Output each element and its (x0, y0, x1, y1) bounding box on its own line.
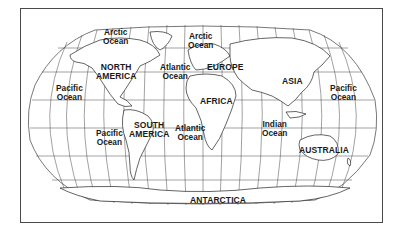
label-line: Ocean (262, 129, 287, 138)
label-line: AUSTRALIA (299, 146, 349, 155)
label-europe: EUROPE (207, 63, 244, 72)
label-asia: ASIA (282, 77, 303, 86)
label-line: ANTARCTICA (190, 196, 246, 205)
label-arctic-ocean-east: Arctic Ocean (188, 32, 213, 50)
label-north-america: NORTH AMERICA (96, 63, 136, 81)
new-zealand-shape (347, 158, 350, 166)
label-pacific-ocean-north-west: Pacific Ocean (56, 84, 83, 102)
indonesia-shape (286, 111, 306, 118)
label-pacific-ocean-east: Pacific Ocean (330, 84, 357, 102)
label-africa: AFRICA (200, 97, 233, 106)
label-line: Ocean (188, 41, 213, 50)
label-line: AMERICA (96, 72, 136, 81)
label-south-america: SOUTH AMERICA (129, 121, 169, 139)
label-line: Ocean (103, 37, 128, 46)
label-atlantic-ocean-south: Atlantic Ocean (175, 124, 205, 142)
label-line: Ocean (330, 93, 357, 102)
label-line: AFRICA (200, 97, 233, 106)
label-line: Ocean (96, 138, 123, 147)
label-atlantic-ocean-north: Atlantic Ocean (160, 63, 190, 81)
label-antarctica: ANTARCTICA (190, 196, 246, 205)
label-arctic-ocean-west: Arctic Ocean (103, 28, 128, 46)
label-indian-ocean: Indian Ocean (262, 120, 287, 138)
label-line: Ocean (160, 72, 190, 81)
label-line: Ocean (175, 133, 205, 142)
label-line: ASIA (282, 77, 303, 86)
label-australia: AUSTRALIA (299, 146, 349, 155)
label-line: Ocean (56, 93, 83, 102)
label-pacific-ocean-south: Pacific Ocean (96, 129, 123, 147)
label-line: EUROPE (207, 63, 244, 72)
label-line: AMERICA (129, 130, 169, 139)
